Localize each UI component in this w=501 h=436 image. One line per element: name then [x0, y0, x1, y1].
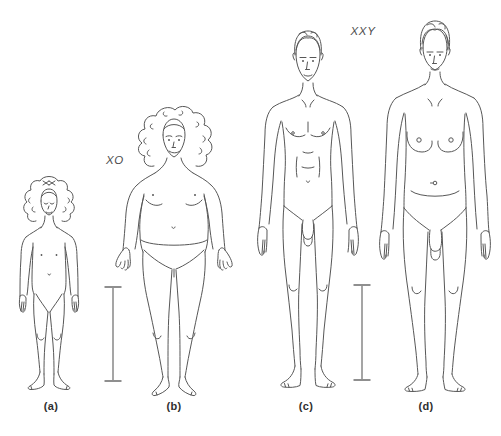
figure-a-illustration	[19, 177, 78, 390]
panel-label-c: (c)	[286, 400, 326, 412]
karyotype-label-xo: XO	[95, 154, 135, 166]
figure-b-body	[116, 158, 232, 270]
figure-d-body	[380, 72, 491, 259]
figure-b-detail	[141, 200, 207, 277]
figure-a-body	[19, 216, 78, 312]
figure-a-legs	[28, 294, 70, 390]
figure-d-hair	[420, 21, 449, 50]
medical-illustration: XO XXY (a) (b) (c) (d)	[0, 0, 501, 436]
karyotype-label-xxy: XXY	[341, 25, 385, 37]
figure-a-face	[41, 189, 57, 215]
figure-c-illustration	[258, 31, 359, 387]
figure-b-illustration	[116, 106, 232, 395]
figure-c-hair	[295, 31, 322, 55]
panel-label-b: (b)	[154, 400, 194, 412]
figure-c-detail	[284, 122, 332, 246]
figure-d-illustration	[380, 21, 491, 391]
scale-bar-right	[354, 285, 371, 380]
panel-label-d: (d)	[406, 400, 446, 412]
figure-b-hair	[138, 106, 211, 166]
illustration-canvas	[0, 0, 501, 436]
panel-label-a: (a)	[31, 400, 71, 412]
figure-c-body	[258, 83, 359, 255]
figure-c-legs	[281, 206, 335, 387]
figure-d-detail	[404, 132, 466, 260]
figure-a-detail	[36, 274, 62, 312]
figure-d-legs	[403, 208, 467, 391]
figure-c-face	[293, 36, 323, 81]
scale-bar-left	[105, 287, 122, 381]
figure-b-face	[163, 119, 185, 157]
